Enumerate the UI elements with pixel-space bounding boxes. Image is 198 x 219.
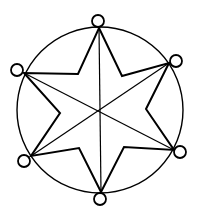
diagram-canvas (0, 0, 198, 219)
node-bottom (94, 193, 106, 205)
star-circle-diagram (0, 0, 198, 219)
node-lower-right (174, 146, 186, 158)
node-upper-left (11, 64, 23, 76)
diagonal-upper-left-to-lower-right (24, 73, 174, 150)
diagonal-lines (24, 28, 174, 192)
node-top (92, 15, 104, 27)
node-lower-left (18, 155, 30, 167)
node-upper-right (170, 55, 182, 67)
